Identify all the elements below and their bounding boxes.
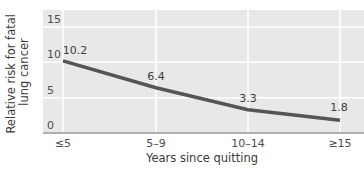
x-tick-label: ≥15 <box>328 137 351 150</box>
y-tick-label: 10 <box>47 48 61 61</box>
data-value-label: 1.8 <box>330 101 348 114</box>
y-tick-label: 5 <box>47 84 54 97</box>
data-value-label: 3.3 <box>239 92 257 105</box>
y-tick-label: 0 <box>47 119 54 132</box>
y-tick-label: 15 <box>47 13 61 26</box>
data-value-label: 6.4 <box>147 70 165 83</box>
line-chart: 051015 ≤55–910–14≥15 10.26.43.31.8 Years… <box>0 0 364 173</box>
y-axis-title-line-1: Relative risk for fatal <box>4 14 18 134</box>
x-tick-label: 5–9 <box>146 137 166 150</box>
data-value-label: 10.2 <box>63 44 88 57</box>
x-tick-label: ≤5 <box>55 137 71 150</box>
plot-area <box>43 10 364 133</box>
y-axis-title-line-2: lung cancer <box>17 38 31 106</box>
x-axis-tick-labels: ≤55–910–14≥15 <box>55 137 352 150</box>
x-axis-title: Years since quitting <box>145 151 258 165</box>
x-tick-label: 10–14 <box>231 137 265 150</box>
y-axis-title: Relative risk for fatal lung cancer <box>4 10 31 133</box>
